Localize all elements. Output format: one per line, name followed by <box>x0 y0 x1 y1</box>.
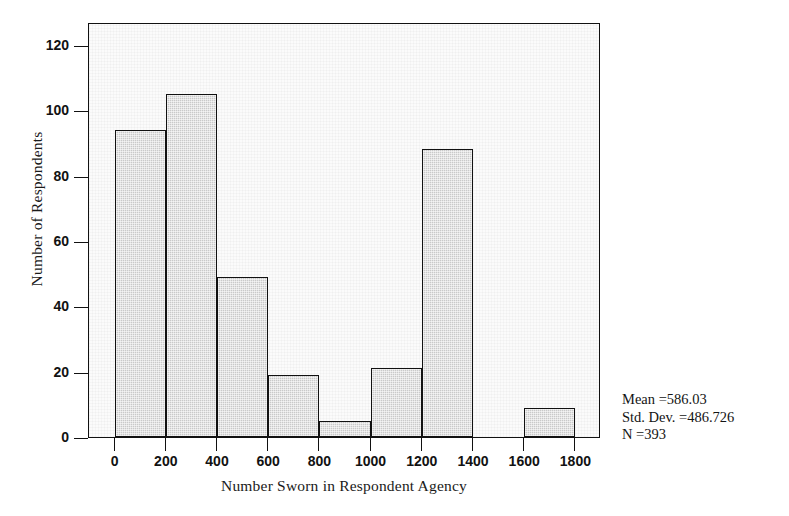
y-axis-tick-label: 20 <box>53 364 74 380</box>
x-axis-tick: 200 <box>165 438 166 451</box>
x-axis-tick-label: 1000 <box>355 453 386 469</box>
x-axis-tick-label: 1800 <box>560 453 591 469</box>
x-axis-tick: 1400 <box>472 438 473 451</box>
x-axis-tick-label: 200 <box>154 453 177 469</box>
y-axis-tick: 0 <box>74 438 88 439</box>
histogram-figure: Number of Respondents 020406080100120 02… <box>0 0 789 516</box>
histogram-bar <box>166 94 217 437</box>
y-axis-tick: 100 <box>74 111 88 112</box>
statistics-annotation: Mean =586.03 Std. Dev. =486.726 N =393 <box>622 391 734 444</box>
histogram-bar <box>268 375 319 437</box>
x-axis-tick-label: 1200 <box>406 453 437 469</box>
y-axis-tick-label: 60 <box>53 233 74 249</box>
x-axis-tick: 1000 <box>370 438 371 451</box>
y-axis-tick-label: 120 <box>46 37 74 53</box>
y-axis-tick: 40 <box>74 307 88 308</box>
y-axis-tick-label: 40 <box>53 298 74 314</box>
stat-n: N =393 <box>622 426 734 444</box>
x-axis-tick: 600 <box>267 438 268 451</box>
bar-series <box>89 24 599 437</box>
y-axis-tick-label: 0 <box>61 429 74 445</box>
x-axis-tick: 400 <box>216 438 217 451</box>
y-axis-tick-label: 80 <box>53 168 74 184</box>
histogram-bar <box>422 149 473 437</box>
x-axis-tick-label: 0 <box>111 453 119 469</box>
y-axis-tick-label: 100 <box>46 102 74 118</box>
x-axis-tick: 1200 <box>421 438 422 451</box>
x-axis-title: Number Sworn in Respondent Agency <box>88 477 600 495</box>
x-axis-tick-label: 600 <box>257 453 280 469</box>
histogram-bar <box>371 368 422 437</box>
x-axis-tick: 0 <box>114 438 115 451</box>
y-axis-tick: 20 <box>74 373 88 374</box>
histogram-bar <box>217 277 268 437</box>
plot-area <box>88 23 600 438</box>
x-axis-tick-label: 800 <box>308 453 331 469</box>
histogram-bar <box>524 408 575 437</box>
y-axis-tick: 120 <box>74 46 88 47</box>
x-axis-tick: 1800 <box>574 438 575 451</box>
y-axis-tick: 80 <box>74 177 88 178</box>
histogram-bar <box>319 421 370 437</box>
y-axis-tick: 60 <box>74 242 88 243</box>
histogram-bar <box>115 130 166 437</box>
x-axis-tick-label: 1400 <box>457 453 488 469</box>
stat-mean: Mean =586.03 <box>622 391 734 409</box>
x-axis-tick-label: 1600 <box>509 453 540 469</box>
x-axis-tick-label: 400 <box>205 453 228 469</box>
stat-stddev: Std. Dev. =486.726 <box>622 409 734 427</box>
x-axis-tick: 800 <box>318 438 319 451</box>
x-axis-tick: 1600 <box>523 438 524 451</box>
y-axis-title: Number of Respondents <box>28 99 46 319</box>
